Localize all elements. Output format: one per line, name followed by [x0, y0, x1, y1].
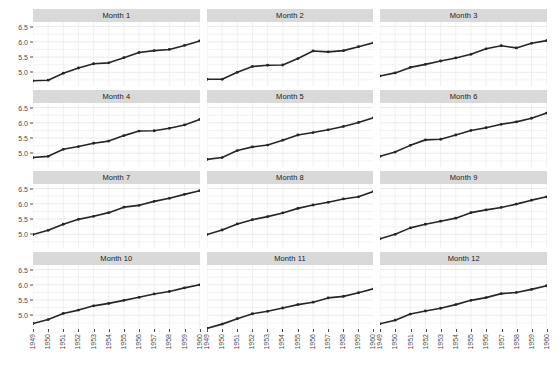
data-point — [281, 64, 284, 67]
x-tick-label: 1955 — [467, 334, 474, 350]
data-point — [342, 198, 345, 201]
x-tick-mark — [343, 329, 344, 332]
data-point — [107, 140, 110, 143]
series-line — [380, 197, 547, 239]
data-point — [515, 120, 518, 123]
x-tick-label: 1954 — [105, 334, 112, 350]
x-tick-label: 1951 — [407, 334, 414, 350]
x-tick-mark — [109, 329, 110, 332]
x-tick-mark — [358, 329, 359, 332]
data-point — [326, 201, 329, 204]
data-point — [33, 156, 34, 159]
data-point — [122, 206, 125, 209]
data-point — [47, 318, 50, 321]
data-point — [439, 60, 442, 63]
y-axis-row: 5.05.56.06.5 — [0, 171, 33, 248]
x-tick-mark — [313, 329, 314, 332]
data-point — [168, 290, 171, 293]
data-point — [530, 288, 533, 291]
data-point — [235, 317, 238, 320]
facet-strip-label: Month 5 — [207, 90, 374, 103]
x-tick-label: 1953 — [437, 334, 444, 350]
y-axis-row: 5.05.56.06.5 — [0, 9, 33, 86]
x-tick-label: 1949 — [203, 334, 210, 350]
series-line — [207, 289, 374, 329]
y-tick-label: 6.5 — [18, 104, 28, 111]
plot-area — [33, 265, 200, 329]
y-tick-label: 5.5 — [18, 54, 28, 61]
data-point — [92, 304, 95, 307]
x-tick-label: 1954 — [452, 334, 459, 350]
x-axis-col: 1949195019511952195319541955195619571958… — [380, 329, 547, 376]
data-point — [424, 63, 427, 66]
x-tick-label: 1956 — [482, 334, 489, 350]
data-point — [281, 139, 284, 142]
data-point — [266, 64, 269, 67]
plot-area — [33, 184, 200, 248]
x-tick-mark — [486, 329, 487, 332]
data-point — [77, 309, 80, 312]
data-point — [357, 45, 360, 48]
data-point — [311, 50, 314, 53]
data-point — [251, 312, 254, 315]
y-tick-label: 5.0 — [18, 312, 28, 319]
data-point — [281, 212, 284, 215]
data-point — [153, 129, 156, 132]
data-point — [424, 223, 427, 226]
x-tick-mark — [63, 329, 64, 332]
data-point — [515, 203, 518, 206]
x-tick-label: 1953 — [90, 334, 97, 350]
page-title — [0, 0, 558, 9]
x-tick-mark — [411, 329, 412, 332]
x-tick-mark — [237, 329, 238, 332]
data-point — [47, 229, 50, 232]
facet-panel: Month 3 — [380, 9, 547, 86]
data-point — [500, 292, 503, 295]
x-tick-mark — [532, 329, 533, 332]
x-tick-label: 1959 — [181, 334, 188, 350]
data-point — [357, 195, 360, 198]
facet-strip-label: Month 3 — [380, 9, 547, 22]
data-point — [394, 151, 397, 154]
facet-strip-label: Month 12 — [380, 252, 547, 265]
y-tick-label: 5.0 — [18, 150, 28, 157]
data-point — [183, 193, 186, 196]
y-tick-label: 5.0 — [18, 69, 28, 76]
data-point — [153, 49, 156, 52]
series-line — [207, 43, 374, 80]
x-tick-mark — [471, 329, 472, 332]
data-point — [122, 134, 125, 137]
data-point — [153, 293, 156, 296]
data-point — [485, 296, 488, 299]
data-point — [220, 78, 223, 81]
data-point — [138, 130, 141, 133]
data-point — [220, 229, 223, 232]
data-point — [107, 302, 110, 305]
facet-panel: Month 1 — [33, 9, 200, 86]
data-point — [92, 215, 95, 218]
plot-area — [33, 22, 200, 86]
data-point — [138, 51, 141, 54]
series-line — [380, 113, 547, 156]
data-point — [439, 138, 442, 141]
plot-area — [207, 265, 374, 329]
data-point — [439, 307, 442, 310]
data-point — [138, 296, 141, 299]
x-tick-label: 1958 — [339, 334, 346, 350]
x-tick-mark — [169, 329, 170, 332]
data-point — [168, 197, 171, 200]
data-point — [251, 145, 254, 148]
data-point — [183, 44, 186, 47]
series-line — [380, 286, 547, 324]
y-tick-label: 6.5 — [18, 23, 28, 30]
data-point — [92, 142, 95, 145]
plot-area — [380, 22, 547, 86]
facet-grid: Month 1Month 2Month 3Month 4Month 5Month… — [33, 9, 547, 329]
series-line — [33, 285, 200, 324]
x-tick-mark — [200, 329, 201, 332]
data-point — [311, 301, 314, 304]
data-point — [122, 299, 125, 302]
x-tick-mark — [33, 329, 34, 332]
x-tick-label: 1956 — [309, 334, 316, 350]
data-point — [515, 46, 518, 49]
